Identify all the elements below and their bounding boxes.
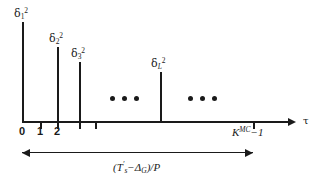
delta-glyph-3: δ (71, 47, 78, 60)
delta-superscript-L: 2 (162, 56, 166, 65)
delta-glyph-L: δ (151, 57, 158, 70)
ellipsis-dot (200, 96, 205, 101)
tick-label-0: 0 (19, 126, 25, 137)
ellipsis-dot (212, 96, 217, 101)
formula-minus: − (127, 161, 134, 173)
ellipsis-dot (122, 96, 127, 101)
symbol-duration-span-line (22, 152, 253, 153)
symbol-duration-span-arrowhead-right (245, 149, 253, 157)
symbol-duration-span-arrowhead-left (22, 149, 30, 157)
ellipsis-dot (110, 96, 115, 101)
ellipsis-right (188, 96, 217, 101)
delta-superscript-1: 2 (24, 6, 28, 15)
kmc-suffix: −1 (251, 126, 264, 138)
stem-label-delta-1-squared: δ12 (14, 7, 28, 20)
tau-axis-label: τ (303, 116, 309, 126)
kmc-superscript: MC (239, 125, 250, 134)
delta-superscript-3: 2 (81, 46, 85, 55)
stem-delta-L-squared (160, 72, 162, 122)
delta-glyph-2: δ (49, 32, 56, 45)
tick-4 (95, 121, 97, 129)
tick-3 (79, 121, 81, 129)
tick-label-kmc-minus-1: KMC−1 (232, 126, 263, 138)
tick-label-2: 2 (54, 126, 60, 137)
stem-label-delta-2-squared: δ22 (49, 32, 63, 45)
tick-label-1: 1 (37, 126, 43, 137)
stem-label-delta-3-squared: δ32 (71, 47, 85, 60)
tau-axis-arrowhead (288, 118, 296, 126)
power-delay-profile-figure: δ12 δ22 δ32 δL2 τ 0 1 2 KMC−1 (0, 0, 323, 188)
symbol-duration-span-label: (T′s−ΔG)/P (113, 161, 160, 174)
ellipsis-left (110, 96, 139, 101)
delta-superscript-2: 2 (59, 31, 63, 40)
stem-delta-1-squared (22, 22, 24, 122)
stem-delta-2-squared (57, 47, 59, 122)
tau-axis-line (22, 121, 290, 123)
stem-delta-3-squared (79, 62, 81, 122)
delta-glyph-1: δ (14, 7, 21, 20)
stem-label-delta-L-squared: δL2 (151, 57, 166, 70)
tau-glyph: τ (303, 115, 309, 126)
ellipsis-dot (188, 96, 193, 101)
formula-P: P (153, 161, 160, 173)
ellipsis-dot (134, 96, 139, 101)
